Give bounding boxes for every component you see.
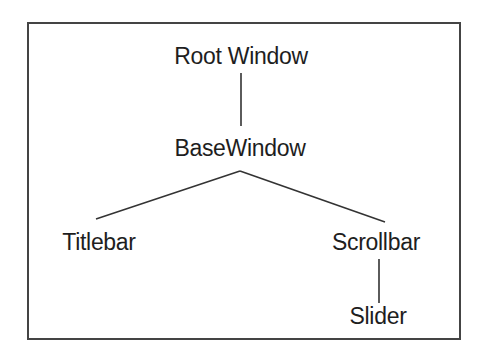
node-titlebar: Titlebar — [62, 231, 135, 254]
node-slider: Slider — [349, 305, 406, 328]
edge-base-to-scrollbar — [240, 171, 385, 222]
node-root-window: Root Window — [174, 45, 307, 68]
node-base-window: BaseWindow — [174, 137, 305, 160]
edge-base-to-titlebar — [96, 171, 240, 219]
node-scrollbar: Scrollbar — [332, 231, 420, 254]
